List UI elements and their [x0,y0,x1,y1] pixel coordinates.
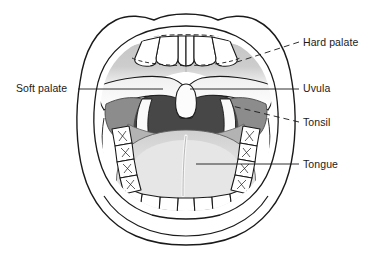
label-tongue: Tongue [303,158,338,170]
oral-cavity-group [98,35,274,215]
label-uvula: Uvula [303,82,330,94]
upper-teeth-group [135,36,238,66]
label-hard-palate: Hard palate [303,36,358,48]
anatomy-figure: Hard palate Uvula Tonsil Tongue Soft pal… [0,0,372,258]
label-soft-palate: Soft palate [16,82,67,94]
label-tonsil: Tonsil [303,116,330,128]
upper-incisor-right-central [186,36,194,66]
upper-incisor-left-central [178,36,186,66]
